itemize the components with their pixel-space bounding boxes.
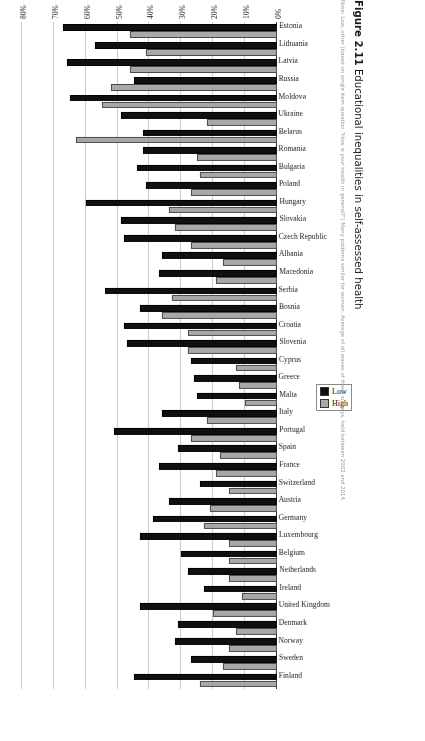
bar-high <box>102 102 277 109</box>
bar-row: Latvia <box>22 57 277 75</box>
category-label: Finland <box>279 672 302 680</box>
bar-row: Greece <box>22 373 277 391</box>
bar-low <box>140 305 277 312</box>
category-label: Greece <box>279 374 301 382</box>
bar-low <box>175 638 277 645</box>
bar-low <box>67 59 277 66</box>
bar-low <box>124 235 277 242</box>
category-label: Macedonia <box>279 268 313 276</box>
bar-low <box>63 24 277 31</box>
figure-number: Figure 2.11 <box>353 0 364 66</box>
bar-low <box>140 533 277 540</box>
figure-page: FinlandSwedenNorwayDenmarkUnited Kingdom… <box>0 0 425 741</box>
bar-high <box>229 540 277 547</box>
category-label: Ukraine <box>279 111 303 119</box>
bar-low <box>169 498 277 505</box>
bar-row: Russia <box>22 75 277 93</box>
bar-row: Ukraine <box>22 110 277 128</box>
bar-high <box>229 575 277 582</box>
plot-area: FinlandSwedenNorwayDenmarkUnited Kingdom… <box>22 22 277 689</box>
tick-label-60%: 60% <box>83 5 92 19</box>
bar-row: Lithuania <box>22 40 277 58</box>
bar-row: Denmark <box>22 619 277 637</box>
bar-high <box>220 452 277 459</box>
category-label: Cyprus <box>279 356 301 364</box>
bar-high <box>191 189 277 196</box>
category-label: Moldova <box>279 93 306 101</box>
bar-high <box>111 84 277 91</box>
bar-high <box>175 224 277 231</box>
bar-row: Serbia <box>22 285 277 303</box>
bar-low <box>201 481 278 488</box>
bar-low <box>162 252 277 259</box>
bar-row: Finland <box>22 671 277 689</box>
category-label: Spain <box>279 444 296 452</box>
bar-low <box>134 674 277 681</box>
bar-low <box>143 130 277 137</box>
bar-low <box>124 323 277 330</box>
bar-high <box>130 31 277 38</box>
bar-low <box>86 200 277 207</box>
tick-label-80%: 80% <box>19 5 28 19</box>
category-label: Lithuania <box>279 40 308 48</box>
bar-high <box>229 646 277 653</box>
bar-row: Poland <box>22 180 277 198</box>
bar-high <box>191 242 277 249</box>
bar-low <box>178 621 277 628</box>
bar-row: Austria <box>22 496 277 514</box>
category-label: Slovenia <box>279 339 306 347</box>
category-label: Norway <box>279 637 303 645</box>
caption-block: Figure 2.11 Educational inequalities in … <box>328 0 368 741</box>
bar-low <box>188 568 277 575</box>
category-label: Poland <box>279 181 300 189</box>
tick-label-0%: 0% <box>274 9 283 19</box>
bar-high <box>229 488 277 495</box>
category-label: Hungary <box>279 198 306 206</box>
category-label: Bosnia <box>279 304 300 312</box>
category-label: Latvia <box>279 58 298 66</box>
bar-low <box>204 586 277 593</box>
bar-high <box>130 66 277 73</box>
bar-low <box>105 288 277 295</box>
bar-high <box>76 137 277 144</box>
bar-row: Albania <box>22 250 277 268</box>
bar-row: Cyprus <box>22 356 277 374</box>
bar-high <box>207 417 277 424</box>
bar-low <box>127 340 277 347</box>
bar-high <box>242 593 277 600</box>
bar-low <box>197 393 277 400</box>
tick-label-10%: 10% <box>242 5 251 19</box>
bar-low <box>143 147 277 154</box>
bar-low <box>153 516 277 523</box>
category-label: Germany <box>279 514 307 522</box>
bar-high <box>236 365 277 372</box>
bar-row: Estonia <box>22 22 277 40</box>
bar-high <box>213 610 277 617</box>
bar-low <box>134 77 277 84</box>
chart-area: FinlandSwedenNorwayDenmarkUnited Kingdom… <box>0 0 360 741</box>
figure-caption: Figure 2.11 Educational inequalities in … <box>353 0 364 310</box>
bar-row: Belarus <box>22 128 277 146</box>
bar-low <box>70 95 277 102</box>
bar-high <box>210 505 277 512</box>
bar-row: Spain <box>22 443 277 461</box>
category-label: Bulgaria <box>279 163 305 171</box>
bar-high <box>223 259 277 266</box>
category-label: Croatia <box>279 321 301 329</box>
category-label: Belgium <box>279 549 305 557</box>
category-label: Sweden <box>279 654 303 662</box>
bar-high <box>223 663 277 670</box>
bar-high <box>204 523 277 530</box>
category-label: Ireland <box>279 584 301 592</box>
bar-row: France <box>22 461 277 479</box>
bar-high <box>207 119 277 126</box>
bar-high <box>201 172 278 179</box>
bar-row: Italy <box>22 408 277 426</box>
bar-row: Norway <box>22 636 277 654</box>
bar-row: Portugal <box>22 426 277 444</box>
category-label: Czech Republic <box>279 233 327 241</box>
category-label: Romania <box>279 146 306 154</box>
bar-high <box>172 295 277 302</box>
bar-high <box>197 154 277 161</box>
bar-high <box>188 347 277 354</box>
